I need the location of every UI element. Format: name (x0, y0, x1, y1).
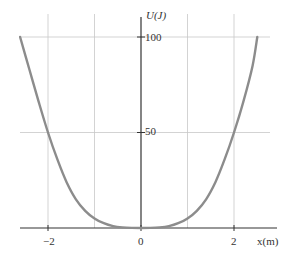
x-tick-label-minus-2: −2 (43, 235, 55, 247)
y-tick-label-50: 50 (145, 125, 157, 137)
y-tick-label-100: 100 (145, 31, 162, 43)
x-tick-label-2: 2 (231, 235, 237, 247)
grid-lines (20, 14, 270, 228)
x-axis-label: x(m) (257, 235, 279, 248)
x-tick-label-0: 0 (138, 235, 144, 247)
potential-energy-chart: U(J) 100 50 −2 0 2 x(m) (0, 0, 286, 255)
y-axis-label: U(J) (146, 9, 166, 22)
